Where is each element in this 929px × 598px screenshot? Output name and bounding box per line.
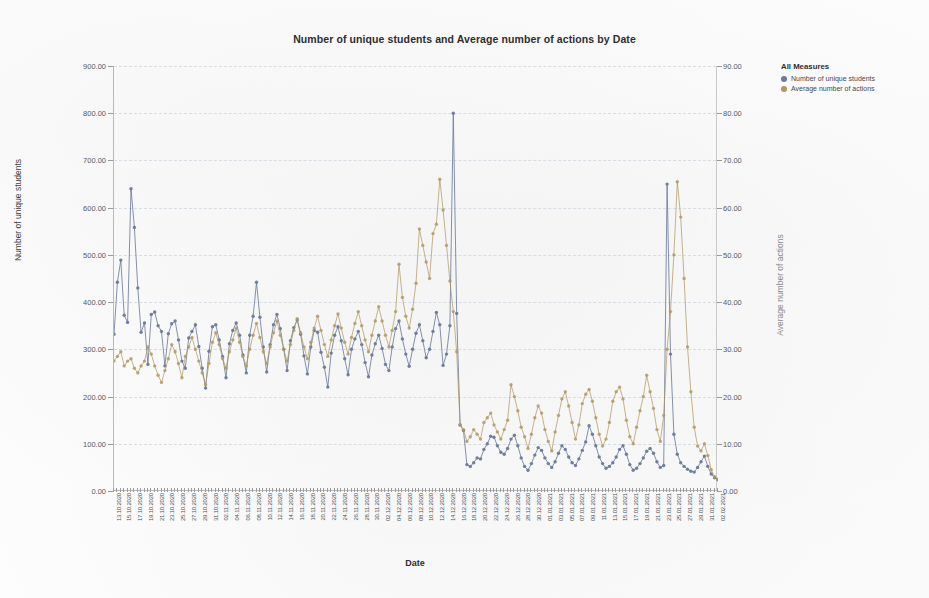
x-axis-tick-label: 23.01.2021: [666, 493, 672, 521]
data-point: [126, 359, 129, 362]
y-axis-left-tick-label: 900.00: [83, 62, 106, 71]
x-axis-tick-mark: [320, 488, 321, 492]
x-axis-tick-mark: [272, 488, 273, 492]
data-point: [611, 461, 614, 464]
data-point: [581, 402, 584, 405]
x-axis-tick-mark: [490, 488, 491, 492]
data-point: [231, 329, 234, 332]
data-point: [323, 366, 326, 369]
data-point: [550, 466, 553, 469]
x-axis-tick-mark: [367, 488, 368, 492]
x-axis-tick-mark: [337, 488, 338, 492]
data-point: [319, 351, 322, 354]
x-axis-tick-mark: [564, 488, 565, 492]
data-point: [211, 341, 214, 344]
data-point: [594, 444, 597, 447]
x-axis-tick-mark: [463, 488, 464, 492]
y-axis-right-tick-label: 40.00: [723, 298, 742, 307]
data-point: [401, 296, 404, 299]
data-point: [207, 362, 210, 365]
data-point: [197, 359, 200, 362]
data-point: [214, 331, 217, 334]
data-point: [530, 462, 533, 465]
data-point: [486, 416, 489, 419]
x-axis-tick-mark: [164, 488, 165, 492]
legend-marker-icon: [781, 76, 787, 82]
x-axis-tick-mark: [357, 488, 358, 492]
data-point: [642, 456, 645, 459]
x-axis-tick-mark: [344, 488, 345, 492]
x-axis-tick-mark: [493, 488, 494, 492]
data-point: [363, 361, 366, 364]
data-point: [184, 367, 187, 370]
chart-page: Number of unique students and Average nu…: [0, 0, 929, 598]
x-axis-title: Date: [113, 558, 717, 568]
x-axis-tick-mark: [659, 488, 660, 492]
data-point: [679, 461, 682, 464]
data-point: [350, 336, 353, 339]
data-point: [401, 337, 404, 340]
data-point: [153, 364, 156, 367]
data-point: [638, 409, 641, 412]
legend-marker-icon: [781, 86, 787, 92]
data-point: [275, 319, 278, 322]
data-point: [377, 305, 380, 308]
data-point: [160, 330, 163, 333]
data-point: [421, 244, 424, 247]
y-axis-left-tick-label: 600.00: [83, 203, 106, 212]
data-point: [279, 334, 282, 337]
data-point: [567, 455, 570, 458]
legend-item[interactable]: Average number of actions: [781, 85, 923, 92]
data-point: [465, 463, 468, 466]
data-point: [394, 327, 397, 330]
data-point: [520, 426, 523, 429]
y-axis-right-tick-label: 50.00: [723, 250, 742, 259]
data-point: [275, 313, 278, 316]
x-axis-tick-mark: [378, 488, 379, 492]
data-point: [452, 112, 455, 115]
data-point: [537, 404, 540, 407]
x-axis-tick-label: 29.10.2020: [202, 493, 208, 521]
data-point: [553, 430, 556, 433]
x-axis-tick-mark: [642, 488, 643, 492]
data-point: [163, 369, 166, 372]
x-axis-tick-mark: [154, 488, 155, 492]
data-point: [201, 371, 204, 374]
data-point: [506, 447, 509, 450]
x-axis-tick-mark: [113, 488, 114, 492]
y-axis-left-tick-label: 700.00: [83, 156, 106, 165]
x-axis-tick-label: 16.12.2020: [461, 493, 467, 521]
data-point: [608, 465, 611, 468]
data-point: [587, 388, 590, 391]
x-axis-tick-mark: [663, 488, 664, 492]
data-point: [173, 350, 176, 353]
x-axis-tick-label: 18.12.2020: [471, 493, 477, 521]
x-axis-tick-mark: [585, 488, 586, 492]
data-point: [523, 465, 526, 468]
data-point: [547, 462, 550, 465]
data-point: [133, 367, 136, 370]
data-point: [343, 341, 346, 344]
data-point: [167, 332, 170, 335]
data-point: [682, 465, 685, 468]
data-point: [272, 331, 275, 334]
legend-item[interactable]: Number of unique students: [781, 75, 923, 82]
data-point: [458, 423, 461, 426]
x-axis-tick-mark: [147, 488, 148, 492]
x-axis-tick-label: 07.01.2021: [579, 493, 585, 521]
data-point: [479, 437, 482, 440]
x-axis-tick-mark: [653, 488, 654, 492]
data-point: [625, 419, 628, 422]
x-axis-tick-mark: [116, 488, 117, 492]
data-point: [194, 348, 197, 351]
data-point: [248, 348, 251, 351]
data-point: [445, 352, 448, 355]
data-point: [676, 180, 679, 183]
data-point: [353, 322, 356, 325]
data-point: [448, 279, 451, 282]
data-point: [357, 330, 360, 333]
x-axis-tick-mark: [690, 488, 691, 492]
y-axis-right-tick-label: 20.00: [723, 392, 742, 401]
x-axis-tick-mark: [327, 488, 328, 492]
data-point: [703, 454, 706, 457]
